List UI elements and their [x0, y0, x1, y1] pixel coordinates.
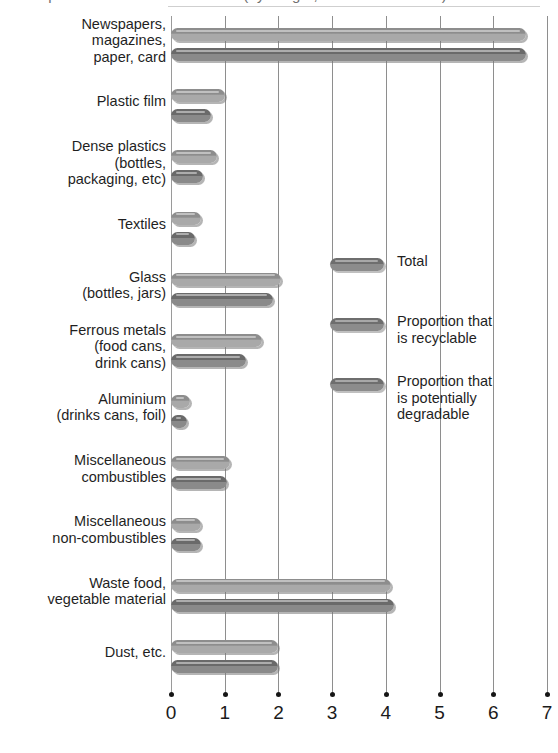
legend-swatch-highlight	[335, 380, 378, 382]
bar-highlight	[176, 50, 520, 52]
x-tick-dot	[169, 692, 174, 697]
legend-label: Proportion that is recyclable	[397, 313, 547, 346]
legend-item[interactable]: Total	[330, 256, 545, 296]
bar-highlight	[176, 213, 195, 215]
bar-proportion	[171, 599, 394, 612]
bar-highlight	[176, 580, 385, 582]
category-row: Plastic film	[0, 79, 558, 140]
bar-total	[171, 334, 262, 347]
chart-title: Composition of household waste (by weigh…	[16, 0, 447, 3]
bar-proportion	[171, 109, 211, 122]
bar-proportion	[171, 48, 526, 61]
category-row: Dense plastics (bottles, packaging, etc)	[0, 140, 558, 201]
bar-highlight	[176, 458, 224, 460]
bar-highlight	[176, 294, 267, 296]
bar-highlight	[176, 642, 272, 644]
category-label: Newspapers, magazines, paper, card	[0, 16, 166, 66]
bar-highlight	[176, 600, 388, 602]
bar-highlight	[176, 662, 272, 664]
bar-highlight	[176, 233, 189, 235]
bar-highlight	[176, 417, 181, 419]
category-label: Waste food, vegetable material	[0, 575, 166, 608]
x-tick-dot	[438, 692, 443, 697]
category-row: Newspapers, magazines, paper, card	[0, 18, 558, 79]
bar-proportion	[171, 354, 246, 367]
x-tick-dot	[384, 692, 389, 697]
plot-area: Newspapers, magazines, paper, cardPlasti…	[0, 16, 558, 692]
bar-total	[171, 273, 281, 286]
legend-swatch-highlight	[335, 260, 378, 262]
bar-highlight	[176, 519, 195, 521]
bar-proportion	[171, 415, 187, 428]
bar-proportion	[171, 293, 273, 306]
x-tick-label: 1	[205, 702, 245, 724]
bar-proportion	[171, 476, 227, 489]
bar-highlight	[176, 152, 211, 154]
bar-highlight	[176, 478, 221, 480]
chart-legend: TotalProportion that is recyclablePropor…	[330, 256, 545, 436]
x-tick-label: 7	[527, 702, 558, 724]
category-label: Plastic film	[0, 93, 166, 110]
bar-proportion	[171, 170, 203, 183]
bar-highlight	[176, 30, 520, 32]
bar-highlight	[176, 397, 184, 399]
x-tick-dot	[491, 692, 496, 697]
x-tick-label: 3	[312, 702, 352, 724]
bar-total	[171, 456, 230, 469]
bar-highlight	[176, 539, 195, 541]
legend-swatch	[330, 378, 384, 391]
bar-highlight	[176, 91, 219, 93]
bar-proportion	[171, 232, 195, 245]
category-row: Dust, etc.	[0, 630, 558, 691]
category-label: Miscellaneous combustibles	[0, 452, 166, 485]
category-label: Miscellaneous non-combustibles	[0, 513, 166, 546]
x-tick-dot	[276, 692, 281, 697]
bar-highlight	[176, 111, 205, 113]
bar-total	[171, 518, 201, 531]
legend-item[interactable]: Proportion that is recyclable	[330, 316, 545, 356]
bar-highlight	[176, 172, 197, 174]
legend-swatch	[330, 318, 384, 331]
title-divider	[168, 6, 540, 7]
x-tick-label: 5	[420, 702, 460, 724]
x-tick-label: 2	[258, 702, 298, 724]
bar-total	[171, 395, 190, 408]
bar-total	[171, 28, 526, 41]
bar-highlight	[176, 356, 240, 358]
category-label: Dense plastics (bottles, packaging, etc)	[0, 138, 166, 188]
bar-highlight	[176, 274, 275, 276]
chart-title-strip: Composition of household waste (by weigh…	[0, 0, 558, 4]
x-tick-dot	[223, 692, 228, 697]
category-row: Waste food, vegetable material	[0, 569, 558, 630]
waste-composition-chart: Composition of household waste (by weigh…	[0, 0, 558, 753]
x-axis: 01234567	[0, 692, 558, 753]
category-row: Miscellaneous combustibles	[0, 446, 558, 507]
legend-swatch	[330, 258, 384, 271]
category-label: Dust, etc.	[0, 644, 166, 661]
x-tick-label: 4	[366, 702, 406, 724]
x-tick-dot	[545, 692, 550, 697]
category-label: Glass (bottles, jars)	[0, 269, 166, 302]
x-tick-dot	[330, 692, 335, 697]
legend-swatch-highlight	[335, 320, 378, 322]
bar-total	[171, 579, 391, 592]
category-label: Ferrous metals (food cans, drink cans)	[0, 322, 166, 372]
x-tick-label: 0	[151, 702, 191, 724]
bar-proportion	[171, 538, 201, 551]
legend-label: Proportion that is potentially degradabl…	[397, 373, 547, 423]
legend-label: Total	[397, 253, 547, 270]
legend-item[interactable]: Proportion that is potentially degradabl…	[330, 376, 545, 416]
bar-total	[171, 89, 225, 102]
bar-highlight	[176, 336, 256, 338]
bar-proportion	[171, 660, 278, 673]
bar-total	[171, 640, 278, 653]
category-label: Aluminium (drinks cans, foil)	[0, 391, 166, 424]
bar-total	[171, 150, 217, 163]
category-row: Miscellaneous non-combustibles	[0, 508, 558, 569]
bar-total	[171, 212, 201, 225]
x-tick-label: 6	[473, 702, 513, 724]
category-label: Textiles	[0, 216, 166, 233]
